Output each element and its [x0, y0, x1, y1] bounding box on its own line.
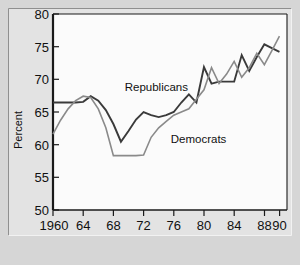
y-tick-label: 50 [35, 203, 49, 218]
y-tick-label: 75 [35, 40, 49, 55]
series-annotation-republicans: Republicans [125, 81, 189, 93]
y-axis-title: Percent [12, 111, 24, 149]
y-tick-label: 65 [35, 105, 49, 120]
series-annotation-democrats: Democrats [171, 133, 227, 145]
x-tick-label: 84 [227, 218, 241, 233]
y-tick-label: 60 [35, 138, 49, 153]
x-tick-label: 88 [257, 218, 271, 233]
x-tick-label: 72 [136, 218, 150, 233]
x-tick-label: 76 [167, 218, 181, 233]
line-chart: 50 55 60 65 70 75 80 Percent 1960 64 68 [0, 0, 300, 265]
x-tick-label: 64 [76, 218, 90, 233]
y-tick-label: 70 [35, 72, 49, 87]
x-tick-label: 80 [197, 218, 211, 233]
y-tick-label: 80 [35, 7, 49, 22]
chart-figure: 50 55 60 65 70 75 80 Percent 1960 64 68 [0, 0, 300, 265]
x-tick-label: 90 [272, 218, 286, 233]
plot-area-background [53, 14, 287, 210]
x-tick-label: 1960 [40, 218, 69, 233]
x-tick-label: 68 [106, 218, 120, 233]
y-tick-label: 55 [35, 170, 49, 185]
